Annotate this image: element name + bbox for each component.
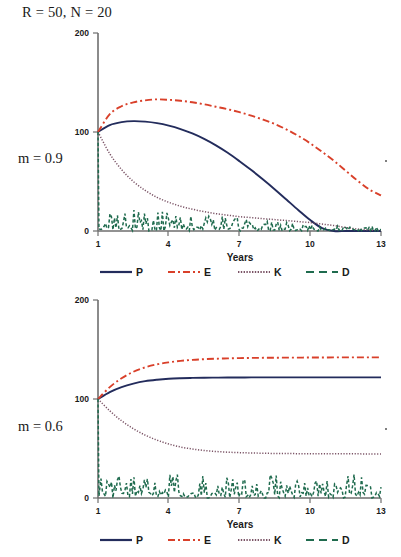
x-tick-label-1-2: 1 xyxy=(96,506,101,516)
y-tick-label-200: 200 xyxy=(75,28,89,38)
figure-container: R = 50, N = 20 m = 0.9 200 100 0 1 4 7 1… xyxy=(0,0,401,557)
y-tick-label-200-2: 200 xyxy=(75,295,89,305)
legend-label-P: P xyxy=(136,266,143,278)
y-tick-label-100-2: 100 xyxy=(75,394,89,404)
panel-m06: m = 0.6 200 100 0 1 4 7 10 13 Years xyxy=(0,278,401,556)
x-tick-label-7-2: 7 xyxy=(237,506,242,516)
y-tick-label-0: 0 xyxy=(84,226,89,236)
series-line-P-p1 xyxy=(98,377,381,399)
legend-label-E: E xyxy=(204,266,211,278)
panel-m09: R = 50, N = 20 m = 0.9 200 100 0 1 4 7 1… xyxy=(0,0,401,278)
x-tick-label-7: 7 xyxy=(237,239,242,249)
x-tick-label-1: 1 xyxy=(96,239,101,249)
series-line-E-p0 xyxy=(98,99,381,195)
legend-label-P-2: P xyxy=(136,534,143,546)
series-line-D-p1 xyxy=(98,399,381,498)
x-tick-label-10: 10 xyxy=(305,239,315,249)
plot-area-m06: 200 100 0 1 4 7 10 13 Years xyxy=(0,278,401,528)
legend-label-E-2: E xyxy=(204,534,211,546)
legend-label-D-2: D xyxy=(342,534,350,546)
x-tick-label-13-2: 13 xyxy=(376,506,386,516)
y-tick-label-0-2: 0 xyxy=(84,493,89,503)
series-line-P-p0 xyxy=(98,121,381,231)
x-tick-label-10-2: 10 xyxy=(305,506,315,516)
series-group-m09 xyxy=(98,99,381,231)
legend-label-K-2: K xyxy=(274,534,282,546)
y-tick-label-100: 100 xyxy=(75,127,89,137)
series-line-D-p0 xyxy=(98,132,381,231)
series-group-m06 xyxy=(98,357,381,498)
x-axis-title-2: Years xyxy=(227,519,254,528)
legend-label-K: K xyxy=(274,266,282,278)
x-tick-label-4-2: 4 xyxy=(166,506,171,516)
legend-label-D: D xyxy=(342,266,350,278)
x-axis-title: Years xyxy=(227,252,254,262)
series-line-K-p1 xyxy=(98,399,381,454)
x-tick-label-13: 13 xyxy=(376,239,386,249)
x-tick-label-4: 4 xyxy=(166,239,171,249)
series-line-K-p0 xyxy=(98,132,381,231)
plot-area-m09: 200 100 0 1 4 7 10 13 Years xyxy=(0,0,401,262)
legend-m06: P E K D xyxy=(0,530,401,550)
